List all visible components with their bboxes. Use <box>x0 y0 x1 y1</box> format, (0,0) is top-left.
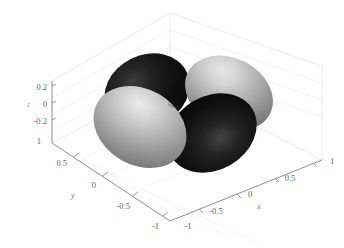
z-axis-spine <box>52 81 56 143</box>
surface-plot-3d <box>0 0 344 248</box>
z-axis-label: z <box>27 100 30 109</box>
y-axis-label: y <box>71 191 75 200</box>
x-tick-label: -0.5 <box>209 207 222 216</box>
y-tick-label: 0 <box>92 181 96 190</box>
z-tick-label: 0.2 <box>36 83 47 92</box>
y-tick-label: -0.5 <box>117 202 130 211</box>
y-tick-label: -1 <box>152 222 159 231</box>
x-tick-label: 0.5 <box>285 174 296 183</box>
x-axis-label: x <box>257 202 261 211</box>
z-tick-label: -0.2 <box>34 117 47 126</box>
x-tick-label: -1 <box>184 222 191 231</box>
y-tick-label: 0.5 <box>56 159 67 168</box>
x-tick-label: 0 <box>248 190 252 199</box>
z-tick-label: 0 <box>43 100 47 109</box>
figure-canvas: 0.2 0 -0.2 z 1 0.5 0 -0.5 -1 y -1 -0.5 0… <box>0 0 344 248</box>
y-tick-label: 1 <box>37 137 41 146</box>
x-tick-label: 1 <box>330 157 334 166</box>
